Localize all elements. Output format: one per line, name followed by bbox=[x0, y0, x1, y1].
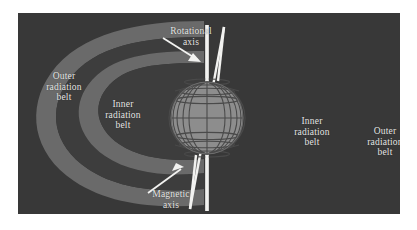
diagram-canvas bbox=[18, 13, 400, 214]
radiation-belt-figure: Outer radiation belt Inner radiation bel… bbox=[0, 0, 417, 230]
diagram-panel: Outer radiation belt Inner radiation bel… bbox=[18, 13, 400, 214]
earth-globe bbox=[169, 79, 245, 157]
